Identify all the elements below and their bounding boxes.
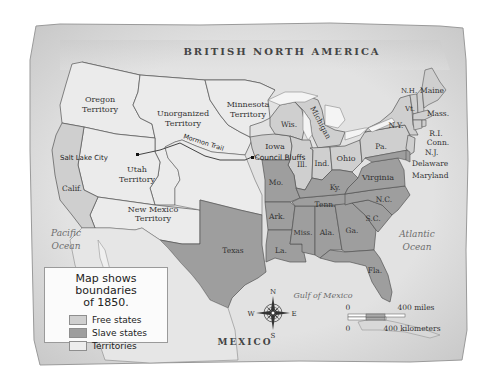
label-gulf-of-mexico: Gulf of Mexico [293, 291, 352, 300]
label-utah-2: Territory [119, 175, 156, 184]
label-ny: N.Y. [389, 121, 404, 130]
label-new-mexico-1: New Mexico [128, 205, 179, 214]
label-texas: Texas [222, 246, 244, 255]
legend-label: Slave states [92, 328, 147, 338]
scale-miles-zero: 0 [346, 303, 351, 312]
label-british-north-america: BRITISH NORTH AMERICA [183, 46, 380, 57]
label-ill: Ill. [297, 160, 307, 169]
scale-km-label: 400 kilometers [384, 324, 441, 333]
label-delaware: Delaware [412, 159, 449, 168]
label-virginia: Virginia [361, 173, 394, 182]
label-utah-1: Utah [127, 165, 147, 174]
label-ark: Ark. [268, 212, 285, 221]
compass-e: E [291, 310, 296, 318]
label-mass: Mass. [427, 109, 449, 118]
legend-label: Territories [92, 341, 137, 351]
territories-swatch [69, 341, 87, 351]
label-ind: Ind. [315, 159, 330, 168]
slave-states-swatch [69, 328, 87, 338]
label-tenn: Tenn. [315, 200, 336, 209]
salt-lake-city-marker [136, 153, 139, 156]
label-vt: Vt. [404, 105, 415, 113]
label-oregon-1: Oregon [85, 95, 115, 104]
legend-label: Free states [92, 315, 141, 325]
label-maryland: Maryland [412, 171, 449, 180]
legend-item-free-states: Free states [69, 313, 167, 326]
label-mo: Mo. [269, 178, 283, 187]
legend-title-line1: Map shows boundaries [45, 273, 167, 297]
label-mexico: MEXICO [217, 337, 272, 347]
label-fla: Fla. [368, 266, 382, 275]
label-wis: Wis. [281, 120, 297, 129]
label-ala: Ala. [319, 228, 335, 237]
legend: Map shows boundaries of 1850. Free state… [44, 267, 168, 343]
legend-item-territories: Territories [69, 339, 167, 352]
label-iowa: Iowa [265, 142, 285, 151]
label-ohio: Ohio [336, 154, 355, 163]
delaware [406, 150, 410, 162]
compass-w: W [247, 310, 255, 318]
label-pacific-2: Ocean [52, 241, 81, 251]
label-ky: Ky. [330, 183, 341, 192]
label-atlantic-2: Ocean [403, 242, 432, 252]
label-unorganized-1: Unorganized [157, 109, 209, 118]
label-nj: N.J. [425, 148, 438, 157]
compass-s: S [271, 332, 276, 340]
label-atlantic-1: Atlantic [398, 229, 435, 239]
label-minnesota-2: Territory [230, 110, 267, 119]
label-miss: Miss. [294, 229, 313, 237]
legend-item-slave-states: Slave states [69, 326, 167, 339]
label-unorganized-2: Territory [165, 119, 202, 128]
label-conn: Conn. [427, 138, 449, 147]
label-ri: R.I. [429, 129, 442, 138]
label-oregon-2: Territory [82, 105, 119, 114]
scale-miles-label: 400 miles [398, 303, 435, 312]
map-1850: BRITISH NORTH AMERICA MEXICO Pacific Oce… [0, 0, 489, 385]
label-nh: N.H. [401, 87, 417, 95]
label-la: La. [275, 246, 287, 255]
label-nc: N.C. [376, 195, 392, 204]
label-calif: Calif. [62, 184, 82, 193]
label-sc: S.C. [365, 214, 380, 223]
label-pa: Pa. [375, 142, 387, 151]
connecticut [413, 120, 422, 130]
scale-km-zero: 0 [346, 324, 351, 333]
compass-n: N [270, 288, 276, 296]
label-pacific-1: Pacific [50, 228, 81, 238]
free-states-swatch [69, 315, 87, 325]
label-maine: Maine [420, 86, 444, 95]
label-minnesota-1: Minnesota [227, 100, 270, 109]
label-salt-lake-city: Salt Lake City [60, 154, 108, 162]
label-new-mexico-2: Territory [135, 214, 172, 223]
label-ga: Ga. [346, 226, 359, 235]
rhode-island [422, 120, 426, 127]
legend-title-line2: of 1850. [45, 297, 167, 309]
